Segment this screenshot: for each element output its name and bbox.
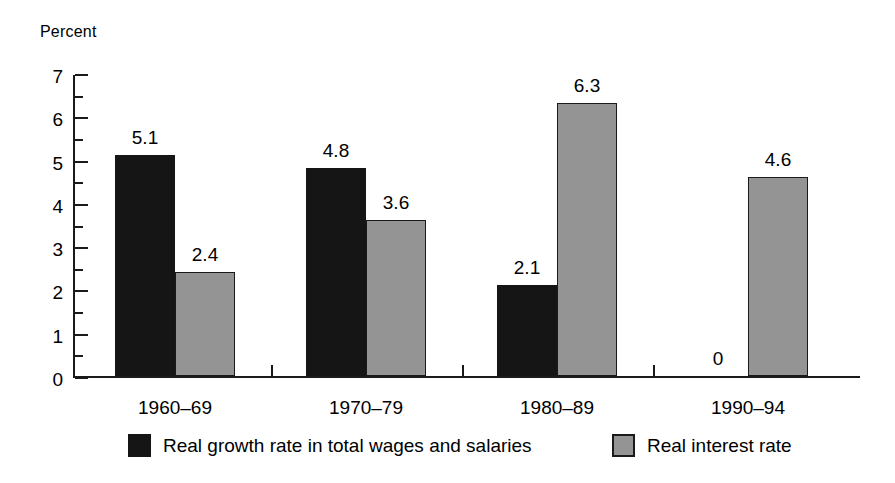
y-tick-major (75, 290, 88, 292)
x-axis-line (73, 376, 860, 378)
x-axis-category-label: 1980–89 (520, 398, 594, 417)
y-tick-major (75, 204, 88, 206)
bar-value-label: 2.4 (192, 245, 218, 264)
bar-value-label: 2.1 (514, 258, 540, 277)
y-axis-title: Percent (40, 23, 97, 41)
x-axis-separator-tick (462, 365, 464, 378)
legend-item: Real interest rate (612, 434, 792, 457)
bar (557, 103, 617, 376)
bar (306, 168, 366, 376)
chart-legend: Real growth rate in total wages and sala… (0, 428, 895, 468)
y-tick-minor (75, 182, 83, 184)
bar-value-label: 6.3 (574, 76, 600, 95)
plot-area: 01234567 5.12.44.83.62.16.304.6 (73, 75, 860, 378)
y-tick-label: 1 (52, 326, 63, 345)
bar (748, 177, 808, 376)
bar (366, 220, 426, 376)
legend-swatch-icon (612, 434, 635, 457)
y-tick-label: 6 (52, 110, 63, 129)
y-tick-label: 5 (52, 153, 63, 172)
x-axis-category-label: 1990–94 (711, 398, 785, 417)
bar-chart: Percent 01234567 5.12.44.83.62.16.304.6 … (0, 0, 895, 483)
y-tick-label: 2 (52, 283, 63, 302)
bar-value-label: 5.1 (132, 128, 158, 147)
y-tick-label: 7 (52, 67, 63, 86)
y-tick-minor (75, 355, 83, 357)
y-tick-label: 4 (52, 196, 63, 215)
y-tick-major (75, 377, 88, 379)
y-tick-major (75, 161, 88, 163)
x-axis-category-label: 1970–79 (329, 398, 403, 417)
y-tick-minor (75, 269, 83, 271)
bar (497, 285, 557, 376)
x-axis-separator-tick (653, 365, 655, 378)
legend-item: Real growth rate in total wages and sala… (128, 434, 532, 457)
bar (115, 155, 175, 376)
x-axis-separator-tick (271, 365, 273, 378)
bar-value-label: 0 (713, 349, 724, 368)
bar (175, 272, 235, 376)
bar-value-label: 4.6 (765, 150, 791, 169)
bar-value-label: 3.6 (383, 193, 409, 212)
y-tick-minor (75, 312, 83, 314)
y-tick-label: 3 (52, 240, 63, 259)
bar-value-label: 4.8 (323, 141, 349, 160)
y-tick-minor (75, 226, 83, 228)
y-tick-minor (75, 139, 83, 141)
legend-swatch-icon (128, 434, 151, 457)
y-tick-major (75, 74, 88, 76)
y-tick-minor (75, 96, 83, 98)
y-tick-label: 0 (52, 370, 63, 389)
y-tick-major (75, 247, 88, 249)
legend-label: Real interest rate (647, 436, 792, 455)
y-tick-major (75, 117, 88, 119)
y-tick-major (75, 334, 88, 336)
legend-label: Real growth rate in total wages and sala… (163, 436, 532, 455)
x-axis-category-label: 1960–69 (138, 398, 212, 417)
